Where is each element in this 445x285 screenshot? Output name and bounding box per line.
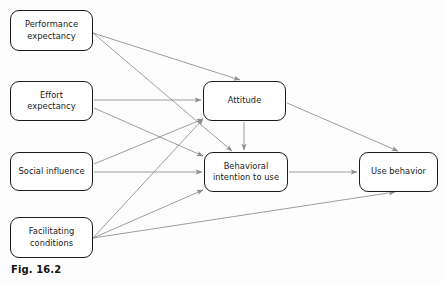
edge-si-to-attitude [94, 119, 203, 164]
node-attitude[interactable]: Attitude [203, 81, 286, 121]
node-effort-expectancy[interactable]: Effort expectancy [10, 81, 93, 121]
edge-ee-to-bi [94, 108, 203, 156]
diagram-canvas: Performance expectancy Effort expectancy… [0, 0, 445, 285]
edge-pe-to-attitude [93, 33, 240, 80]
node-label-effort-expectancy: Effort expectancy [24, 90, 78, 113]
node-label-use-behavior: Use behavior [368, 166, 429, 177]
figure-caption: Fig. 16.2 [11, 264, 61, 275]
node-facilitating-conditions[interactable]: Facilitating conditions [10, 217, 93, 258]
node-performance-expectancy[interactable]: Performance expectancy [10, 10, 93, 51]
edge-fc-to-use [93, 192, 395, 238]
node-social-influence[interactable]: Social influence [10, 152, 93, 191]
node-label-performance-expectancy: Performance expectancy [22, 19, 81, 42]
node-label-facilitating-conditions: Facilitating conditions [26, 226, 78, 249]
node-label-social-influence: Social influence [15, 166, 87, 177]
node-label-attitude: Attitude [225, 95, 265, 106]
edge-attitude-to-use [287, 103, 398, 151]
edge-fc-to-attitude [93, 119, 203, 238]
node-use-behavior[interactable]: Use behavior [359, 152, 438, 192]
edge-fc-to-bi [93, 190, 203, 238]
node-behavioral-intention[interactable]: Behavioral intention to use [204, 152, 288, 192]
node-label-behavioral-intention: Behavioral intention to use [210, 161, 282, 184]
